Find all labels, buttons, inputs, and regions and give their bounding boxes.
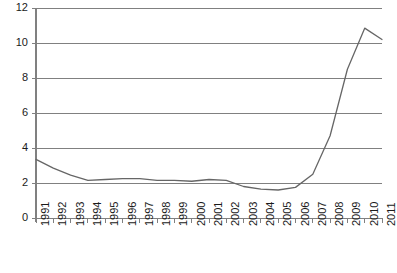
gridlines-group: [36, 8, 382, 218]
y-tick-label-0: 0: [2, 212, 28, 223]
axes-group: [32, 8, 36, 222]
x-tick-label-2003: 2003: [248, 202, 259, 226]
x-tick-label-2011: 2011: [386, 202, 397, 226]
y-tick-label-4: 4: [2, 142, 28, 153]
y-tick-label-2: 2: [2, 177, 28, 188]
x-tick-label-2004: 2004: [265, 202, 276, 226]
y-tick-label-10: 10: [2, 37, 28, 48]
x-tick-label-2001: 2001: [213, 202, 224, 226]
x-tick-label-1994: 1994: [92, 202, 103, 226]
x-tick-label-1992: 1992: [57, 202, 68, 226]
x-tick-label-2007: 2007: [317, 202, 328, 226]
x-tick-label-2006: 2006: [300, 202, 311, 226]
y-tick-label-6: 6: [2, 107, 28, 118]
x-tick-label-2002: 2002: [230, 202, 241, 226]
x-tick-label-1995: 1995: [109, 202, 120, 226]
x-tick-label-1998: 1998: [161, 202, 172, 226]
x-tick-label-1997: 1997: [144, 202, 155, 226]
x-tick-marks-group: [36, 218, 382, 223]
y-tick-label-12: 12: [2, 2, 28, 13]
x-tick-label-2008: 2008: [334, 202, 345, 226]
x-tick-label-2000: 2000: [196, 202, 207, 226]
x-tick-label-1996: 1996: [127, 202, 138, 226]
x-tick-label-1993: 1993: [75, 202, 86, 226]
data-line-series-0: [36, 28, 382, 190]
x-tick-label-2010: 2010: [369, 202, 380, 226]
data-series-group: [36, 28, 382, 190]
x-tick-label-2009: 2009: [351, 202, 362, 226]
x-tick-label-2005: 2005: [282, 202, 293, 226]
y-tick-label-8: 8: [2, 72, 28, 83]
x-tick-label-1991: 1991: [40, 202, 51, 226]
x-tick-label-1999: 1999: [178, 202, 189, 226]
